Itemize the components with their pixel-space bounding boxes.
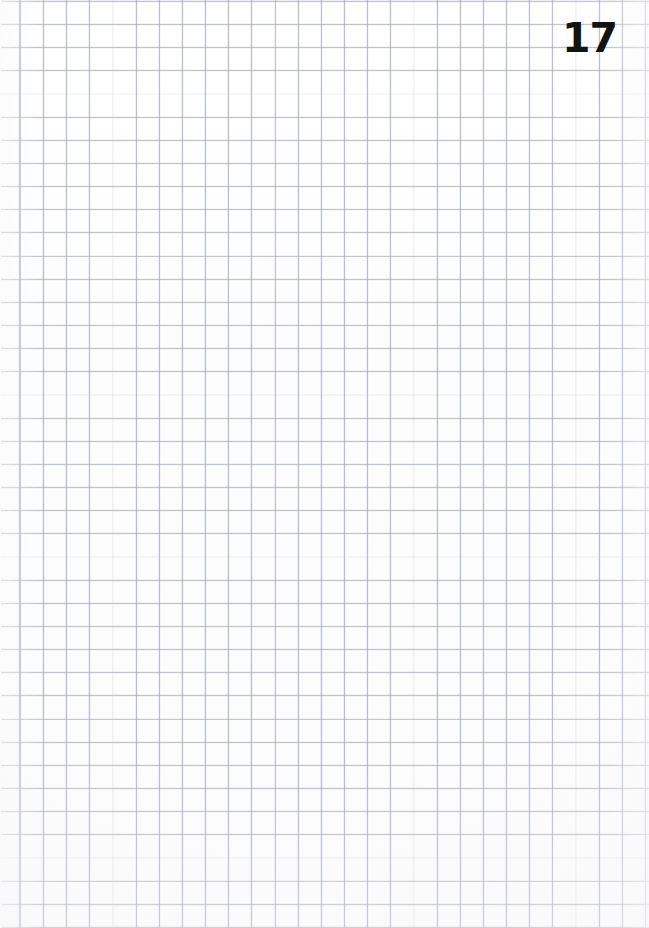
grid-paper-page: 17 [0, 0, 649, 928]
grid-lines [0, 0, 649, 928]
left-edge-margin [0, 0, 1, 928]
page-number: 17 [562, 18, 617, 59]
